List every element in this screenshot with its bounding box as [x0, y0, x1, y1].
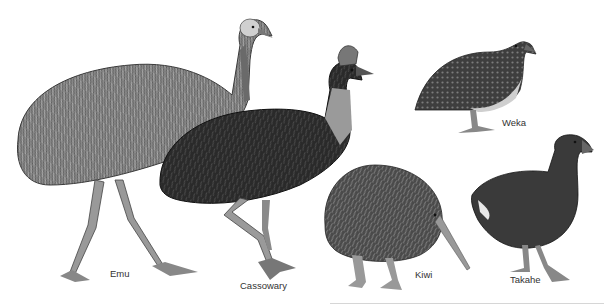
label-kiwi: Kiwi	[415, 269, 432, 280]
label-weka: Weka	[502, 117, 526, 128]
bird-illustration: Emu Cassowary Kiwi Weka Takahe	[0, 0, 604, 306]
divider	[330, 303, 604, 304]
label-takahe: Takahe	[510, 274, 541, 285]
label-emu: Emu	[110, 268, 130, 279]
label-cassowary: Cassowary	[240, 280, 287, 291]
kiwi-figure	[325, 165, 470, 290]
takahe-figure	[471, 135, 594, 282]
